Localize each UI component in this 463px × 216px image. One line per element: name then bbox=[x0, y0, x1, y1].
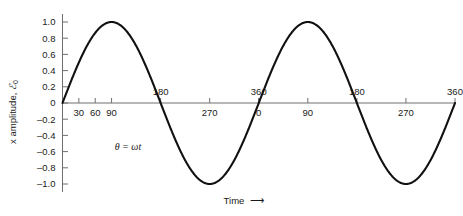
y-axis-tick-label: –0.4 bbox=[37, 130, 56, 141]
theta-annotation: θ = ωt bbox=[115, 141, 142, 152]
x-axis-tick-label-below: 30 bbox=[74, 107, 85, 118]
y-axis-tick-label: 1.0 bbox=[42, 16, 55, 27]
y-axis-tick-label: 0.4 bbox=[42, 65, 55, 76]
x-axis-title-label: Time bbox=[224, 195, 245, 206]
y-axis-tick-label: –0.8 bbox=[37, 162, 56, 173]
y-axis-title-label: x amplitude, ℰ0 bbox=[7, 80, 19, 144]
y-axis-tick-label: –0.6 bbox=[37, 146, 56, 157]
x-axis-title: Time⟶ bbox=[224, 195, 264, 206]
x-axis-tick-label-below: 90 bbox=[106, 107, 117, 118]
x-axis-tick-label-above: 360 bbox=[447, 86, 463, 97]
y-axis-tick-label: 0.2 bbox=[42, 81, 55, 92]
y-axis-tick-label: 0.6 bbox=[42, 49, 55, 60]
y-axis-tick-label: –1.0 bbox=[37, 178, 56, 189]
y-axis-title: x amplitude, ℰ0 bbox=[7, 80, 19, 144]
chart-canvas: 1.00.80.60.40.20–0.2–0.4–0.6–0.8–1.03060… bbox=[0, 0, 463, 216]
x-axis-tick-label-below: 60 bbox=[90, 107, 101, 118]
x-axis-arrow-icon: ⟶ bbox=[250, 195, 264, 206]
y-axis-tick-label: 0 bbox=[50, 97, 55, 108]
x-axis-tick-label-below: 270 bbox=[398, 107, 414, 118]
y-axis-tick-label: 0.8 bbox=[42, 33, 55, 44]
y-axis-tick-label: –0.2 bbox=[37, 114, 56, 125]
x-axis-tick-label-below: 90 bbox=[303, 107, 314, 118]
sine-wave-chart: 1.00.80.60.40.20–0.2–0.4–0.6–0.8–1.03060… bbox=[0, 0, 463, 216]
x-axis-tick-label-below: 270 bbox=[202, 107, 218, 118]
